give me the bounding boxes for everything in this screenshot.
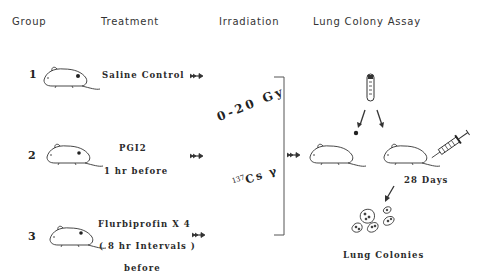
group-number: 3	[28, 230, 36, 243]
mouse-icon	[44, 67, 100, 89]
treatment-label: Flurbiprofin X 4	[98, 219, 191, 229]
mouse-icon	[50, 226, 106, 248]
arrow-right-icon	[287, 153, 300, 158]
syringe-icon	[429, 128, 471, 161]
treatment-label: Saline Control	[102, 70, 185, 80]
lung-colonies-icon	[352, 207, 394, 232]
arrow-right-icon	[190, 74, 203, 79]
interval-label: 28 Days	[404, 175, 448, 185]
mouse-icon	[384, 144, 440, 166]
treatment-label: before	[124, 263, 161, 273]
mouse-icon	[47, 144, 103, 166]
treatment-label: PGI2	[119, 143, 147, 153]
group-number: 2	[28, 149, 36, 162]
arrow-right-icon	[192, 233, 205, 238]
treatment-label: ( 8 hr Intervals )	[99, 241, 196, 251]
arrow-right-icon	[190, 154, 203, 159]
treatment-label: 1 hr before	[104, 166, 168, 176]
diagram-drawing	[0, 0, 489, 280]
mouse-icon	[310, 144, 366, 166]
result-label: Lung Colonies	[343, 250, 424, 260]
test-tube-icon	[367, 74, 374, 101]
group-number: 1	[29, 68, 37, 81]
